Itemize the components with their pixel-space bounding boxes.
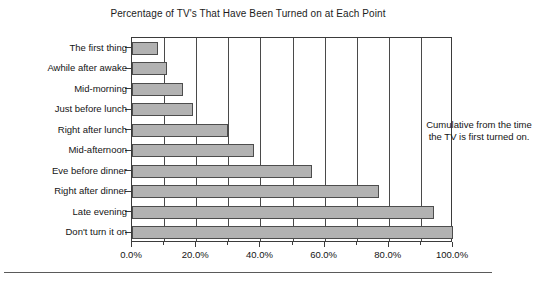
x-tick-major	[452, 242, 453, 247]
y-axis-label: Mid-afternoon	[3, 144, 127, 155]
bottom-divider	[4, 272, 492, 273]
x-tick-major	[324, 242, 325, 247]
y-axis-label: Mid-morning	[3, 83, 127, 94]
y-axis-label: Right after lunch	[3, 124, 127, 135]
y-axis-label: Late evening	[3, 206, 127, 217]
x-tick-major	[195, 242, 196, 247]
x-tick-major	[131, 242, 132, 247]
chart-annotation: Cumulative from the timethe TV is first …	[394, 119, 536, 143]
bar	[132, 165, 312, 178]
x-axis-label: 20.0%	[165, 249, 225, 260]
x-axis-label: 100.0%	[422, 249, 482, 260]
bar	[132, 185, 379, 198]
bar	[132, 206, 434, 219]
bar	[132, 226, 453, 239]
plot-area: Cumulative from the timethe TV is first …	[131, 37, 452, 242]
y-axis-label: Just before lunch	[3, 103, 127, 114]
chart-title: Percentage of TV's That Have Been Turned…	[0, 8, 496, 20]
bar	[132, 42, 158, 55]
annotation-line: the TV is first turned on.	[394, 131, 536, 143]
annotation-line: Cumulative from the time	[394, 119, 536, 131]
y-axis-label: Eve before dinner	[3, 165, 127, 176]
x-tick-minor	[227, 242, 228, 245]
bar	[132, 83, 183, 96]
x-axis: 0.0%20.0%40.0%60.0%80.0%100.0%	[131, 242, 452, 272]
x-axis-label: 0.0%	[101, 249, 161, 260]
x-tick-major	[388, 242, 389, 247]
x-axis-label: 80.0%	[358, 249, 418, 260]
x-tick-minor	[163, 242, 164, 245]
bar	[132, 144, 254, 157]
x-axis-label: 60.0%	[294, 249, 354, 260]
bar	[132, 62, 167, 75]
x-tick-minor	[292, 242, 293, 245]
y-axis-label: The first thing	[3, 42, 127, 53]
x-tick-minor	[420, 242, 421, 245]
bar	[132, 124, 228, 137]
x-tick-minor	[356, 242, 357, 245]
y-axis-label: Awhile after awake	[3, 62, 127, 73]
x-tick-major	[259, 242, 260, 247]
bar	[132, 103, 193, 116]
y-axis-label: Don't turn it on	[3, 226, 127, 237]
y-axis-labels: The first thingAwhile after awakeMid-mor…	[0, 37, 127, 242]
y-axis-label: Right after dinner	[3, 185, 127, 196]
x-axis-label: 40.0%	[229, 249, 289, 260]
